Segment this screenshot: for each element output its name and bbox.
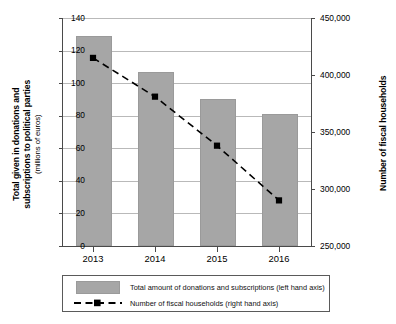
left-axis-tick — [59, 83, 63, 84]
x-axis-tick-label: 2014 — [135, 253, 175, 264]
x-axis-tick — [217, 247, 218, 252]
left-axis-title: Total given in donations and subscriptio… — [11, 44, 44, 244]
left-axis-title-line1: Total given in donations and — [11, 88, 21, 201]
chart-figure: Total given in donations and subscriptio… — [0, 0, 396, 324]
plot-area — [62, 18, 312, 247]
left-axis-tick — [59, 148, 63, 149]
left-axis-tick-label: 80 — [76, 111, 85, 120]
left-axis-tick-label: 120 — [71, 46, 85, 55]
left-axis-title-units: (millions of euros) — [33, 114, 42, 174]
legend-item-line: Number of fiscal households (right hand … — [63, 295, 329, 311]
legend-label-line: Number of fiscal households (right hand … — [130, 299, 278, 308]
x-axis-tick-label: 2013 — [73, 253, 113, 264]
right-axis-tick-label: 250,000 — [320, 242, 350, 251]
legend-label-bars: Total amount of donations and subscripti… — [130, 283, 325, 292]
x-axis-tick-label: 2015 — [197, 253, 237, 264]
x-axis-tick — [93, 247, 94, 252]
x-axis-tick-label: 2016 — [259, 253, 299, 264]
bar — [138, 72, 174, 246]
legend-key-bar — [72, 281, 124, 294]
left-axis-tick — [59, 213, 63, 214]
left-axis-tick — [59, 18, 63, 19]
left-axis-tick — [59, 246, 63, 247]
left-axis-tick-label: 20 — [76, 209, 85, 218]
legend-key-line — [72, 297, 124, 309]
right-axis-tick-label: 300,000 — [320, 185, 350, 194]
left-axis-tick — [59, 116, 63, 117]
bar — [262, 114, 298, 246]
right-axis-title: Number of fiscal households — [378, 33, 389, 233]
left-axis-tick-label: 100 — [71, 79, 85, 88]
right-axis-tick — [311, 75, 315, 76]
right-axis-tick — [311, 246, 315, 247]
chart-legend: Total amount of donations and subscripti… — [62, 275, 330, 312]
right-axis-tick — [311, 132, 315, 133]
right-axis-tick-label: 400,000 — [320, 71, 350, 80]
x-axis-tick — [279, 247, 280, 252]
right-axis-tick-label: 450,000 — [320, 14, 350, 23]
right-axis-tick-label: 350,000 — [320, 128, 350, 137]
left-axis-tick-label: 0 — [80, 242, 85, 251]
left-axis-title-line2: subscriptions to political parties — [21, 80, 31, 209]
bar — [200, 99, 236, 246]
x-axis-tick — [155, 247, 156, 252]
left-axis-tick — [59, 51, 63, 52]
left-axis-tick-label: 140 — [71, 14, 85, 23]
dashed-line-marker-icon — [73, 297, 123, 309]
legend-item-bars: Total amount of donations and subscripti… — [63, 279, 329, 295]
left-axis-tick-label: 60 — [76, 144, 85, 153]
left-axis-tick-label: 40 — [76, 176, 85, 185]
gridline — [63, 18, 311, 19]
left-axis-tick — [59, 181, 63, 182]
right-axis-tick — [311, 18, 315, 19]
legend-swatch-icon — [76, 281, 120, 294]
right-axis-tick — [311, 189, 315, 190]
